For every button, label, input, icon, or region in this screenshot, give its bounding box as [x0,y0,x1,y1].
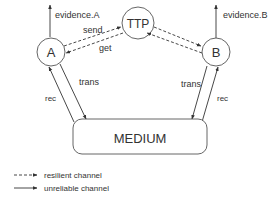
a-rec-label: rec [45,94,56,103]
evidence-a-label: evidence.A [55,10,100,20]
a-trans-arrow [60,64,86,119]
legend-unreliable-label: unreliable channel [44,184,109,193]
node-a: A [37,38,65,66]
legend-unreliable: unreliable channel [14,184,109,193]
protocol-diagram: evidence.A evidence.B A TTP B send get t… [0,0,277,206]
node-ttp-label: TTP [127,17,150,31]
node-a-label: A [47,45,56,60]
get-label: get [99,43,112,53]
send-label: send [83,25,103,35]
node-b: B [202,38,230,66]
legend: resilient channel unreliable channel [14,171,109,193]
node-medium-label: MEDIUM [114,131,167,146]
b-rec-label: rec [217,94,228,103]
legend-resilient: resilient channel [14,171,102,180]
node-medium: MEDIUM [73,119,207,154]
legend-resilient-label: resilient channel [44,171,102,180]
ttp-to-b-arrow [154,27,201,46]
a-trans-label: trans [79,77,100,87]
evidence-b-label: evidence.B [223,10,268,20]
b-trans-label: trans [181,79,202,89]
node-b-label: B [212,45,221,60]
